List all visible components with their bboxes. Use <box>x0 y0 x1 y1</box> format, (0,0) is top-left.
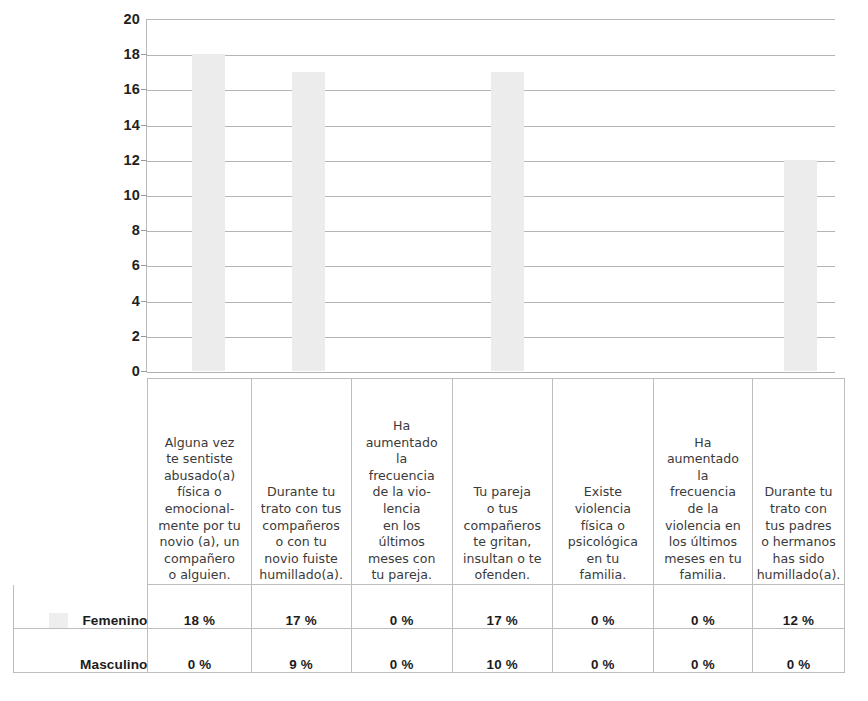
bar-chart: 02468101214161820 <box>0 0 868 378</box>
y-tick-label: 4 <box>132 293 140 308</box>
category-line: mente por tu <box>148 518 250 535</box>
y-tick-mark <box>141 301 147 302</box>
value-cell-femenino-6: 12 % <box>752 585 844 629</box>
bar-femenino-0 <box>192 54 225 371</box>
value-cell-masculino-2: 0 % <box>351 629 452 673</box>
category-line: aumentado <box>352 435 452 452</box>
bar-femenino-6 <box>784 160 817 371</box>
y-tick-mark <box>141 336 147 337</box>
y-tick-mark <box>141 160 147 161</box>
value-cell-femenino-0: 18 % <box>148 585 251 629</box>
category-line: te sentiste <box>148 451 250 468</box>
value-cell-femenino-5: 0 % <box>653 585 752 629</box>
category-line: has sido <box>753 551 844 568</box>
y-tick-mark <box>141 54 147 55</box>
category-line: trato con <box>753 501 844 518</box>
category-line: Tu pareja <box>453 484 552 501</box>
category-line: Durante tu <box>252 484 351 501</box>
y-tick-label: 0 <box>132 364 140 379</box>
category-line: Durante tu <box>753 484 844 501</box>
category-line: física o <box>553 518 653 535</box>
gridline <box>147 55 835 56</box>
y-tick-label: 10 <box>123 188 140 203</box>
category-line: o alguien. <box>148 567 250 584</box>
category-line: novio fuiste <box>252 551 351 568</box>
y-tick-label: 12 <box>123 153 140 168</box>
y-tick-label: 18 <box>123 47 140 62</box>
category-line: tus padres <box>753 518 844 535</box>
category-line: humillado(a). <box>252 567 351 584</box>
category-line: ofenden. <box>453 567 552 584</box>
category-line: compañeros <box>453 518 552 535</box>
category-line: frecuencia <box>352 468 452 485</box>
category-line: tu pareja. <box>352 567 452 584</box>
gridline <box>147 372 835 373</box>
value-cell-masculino-0: 0 % <box>148 629 251 673</box>
category-line: o tus <box>453 501 552 518</box>
y-tick-label: 8 <box>132 223 140 238</box>
table-corner-cell <box>14 379 148 585</box>
y-tick-mark <box>141 89 147 90</box>
value-cell-masculino-4: 0 % <box>552 629 653 673</box>
category-line: o hermanos <box>753 534 844 551</box>
table-row-masculino: Masculino 0 %9 %0 %10 %0 %0 %0 % <box>14 629 845 673</box>
category-line: Alguna vez <box>148 435 250 452</box>
y-axis: 02468101214161820 <box>104 19 140 371</box>
table-row-femenino: Femenino 18 %17 %0 %17 %0 %0 %12 % <box>14 585 845 629</box>
category-cell-5: Haaumentadolafrecuenciade laviolencia en… <box>653 379 752 585</box>
category-line: Ha <box>352 418 452 435</box>
category-line: en los <box>352 518 452 535</box>
table-row-categories: Alguna vezte sentisteabusado(a)física oe… <box>14 379 845 585</box>
category-line: familia. <box>654 567 752 584</box>
category-line: compañeros <box>252 518 351 535</box>
legend-cell-femenino: Femenino <box>14 585 148 629</box>
category-cell-3: Tu parejao tuscompañeroste gritan,insult… <box>452 379 552 585</box>
category-line: compañero <box>148 551 250 568</box>
value-cell-masculino-1: 9 % <box>251 629 351 673</box>
y-tick-mark <box>141 125 147 126</box>
category-line: o con tu <box>252 534 351 551</box>
category-line: de la vio- <box>352 484 452 501</box>
value-cell-femenino-1: 17 % <box>251 585 351 629</box>
value-cell-masculino-3: 10 % <box>452 629 552 673</box>
value-cell-masculino-6: 0 % <box>752 629 844 673</box>
category-line: aumentado <box>654 451 752 468</box>
category-line: frecuencia <box>654 484 752 501</box>
legend-cell-masculino: Masculino <box>14 629 148 673</box>
category-cell-2: Haaumentadolafrecuenciade la vio-lenciae… <box>351 379 452 585</box>
category-line: trato con tus <box>252 501 351 518</box>
category-line: meses con <box>352 551 452 568</box>
bar-femenino-3 <box>491 72 524 371</box>
category-line: novio (a), un <box>148 534 250 551</box>
category-line: Ha <box>654 435 752 452</box>
y-tick-mark <box>141 195 147 196</box>
category-line: emocional- <box>148 501 250 518</box>
category-line: los últimos <box>654 534 752 551</box>
category-line: en tu <box>553 551 653 568</box>
chart-page: 02468101214161820 Alguna vezte sentistea… <box>0 0 868 701</box>
y-tick-mark <box>141 230 147 231</box>
series-label-masculino: Masculino <box>80 657 147 672</box>
y-tick-label: 2 <box>132 329 140 344</box>
category-cell-1: Durante tutrato con tuscompañeroso con t… <box>251 379 351 585</box>
category-line: psicológica <box>553 534 653 551</box>
category-line: física o <box>148 484 250 501</box>
category-line: la <box>654 468 752 485</box>
y-tick-label: 14 <box>123 117 140 132</box>
y-tick-label: 16 <box>123 82 140 97</box>
category-line: de la <box>654 501 752 518</box>
category-line: últimos <box>352 534 452 551</box>
y-tick-label: 6 <box>132 258 140 273</box>
category-cell-4: Existeviolenciafísica opsicológicaen tuf… <box>552 379 653 585</box>
category-line: humillado(a). <box>753 567 844 584</box>
category-line: Existe <box>553 484 653 501</box>
value-cell-masculino-5: 0 % <box>653 629 752 673</box>
category-line: familia. <box>553 567 653 584</box>
category-line: meses en tu <box>654 551 752 568</box>
category-line: insultan o te <box>453 551 552 568</box>
value-cell-femenino-3: 17 % <box>452 585 552 629</box>
category-line: lencia <box>352 501 452 518</box>
category-line: te gritan, <box>453 534 552 551</box>
plot-area <box>146 19 835 371</box>
legend-swatch-femenino <box>49 613 68 628</box>
